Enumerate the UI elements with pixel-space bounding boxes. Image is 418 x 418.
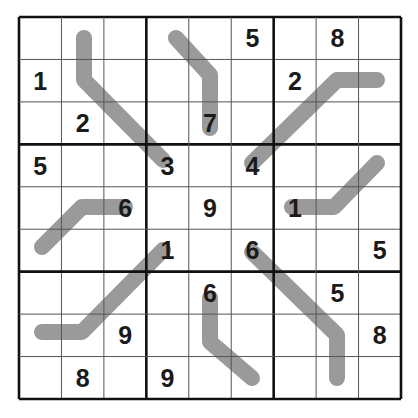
cell-r3c7[interactable] — [274, 102, 316, 144]
cell-r3c4[interactable] — [146, 102, 188, 144]
cell-r5c2[interactable] — [61, 187, 103, 229]
given-digit-r3c5: 7 — [203, 109, 217, 137]
given-digit-r6c9: 5 — [373, 236, 387, 264]
cell-r4c3[interactable] — [104, 144, 146, 186]
cell-r2c9[interactable] — [359, 59, 401, 101]
given-digit-r8c3: 9 — [118, 321, 132, 349]
cell-r2c3[interactable] — [104, 59, 146, 101]
cell-r5c1[interactable] — [19, 187, 61, 229]
cell-r4c8[interactable] — [316, 144, 358, 186]
cell-r8c6[interactable] — [231, 314, 273, 356]
cell-r6c5[interactable] — [189, 229, 231, 271]
given-digit-r1c6: 5 — [245, 24, 259, 52]
cell-r1c2[interactable] — [61, 17, 103, 59]
cell-r2c2[interactable] — [61, 59, 103, 101]
cell-r5c6[interactable] — [231, 187, 273, 229]
given-digit-r5c7: 1 — [288, 194, 302, 222]
given-digit-r7c8: 5 — [330, 279, 344, 307]
cell-r2c4[interactable] — [146, 59, 188, 101]
cell-r6c8[interactable] — [316, 229, 358, 271]
cell-r3c1[interactable] — [19, 102, 61, 144]
cell-r8c5[interactable] — [189, 314, 231, 356]
cell-r6c3[interactable] — [104, 229, 146, 271]
given-digit-r3c2: 2 — [76, 109, 90, 137]
cell-r5c8[interactable] — [316, 187, 358, 229]
cell-r3c8[interactable] — [316, 102, 358, 144]
cell-r4c2[interactable] — [61, 144, 103, 186]
cell-r9c7[interactable] — [274, 357, 316, 399]
cell-r7c3[interactable] — [104, 272, 146, 314]
cell-r1c3[interactable] — [104, 17, 146, 59]
cell-r2c8[interactable] — [316, 59, 358, 101]
cell-r5c4[interactable] — [146, 187, 188, 229]
cell-r7c4[interactable] — [146, 272, 188, 314]
cell-r8c8[interactable] — [316, 314, 358, 356]
given-digit-r7c5: 6 — [203, 279, 217, 307]
given-digit-r1c8: 8 — [330, 24, 344, 52]
cell-r2c5[interactable] — [189, 59, 231, 101]
sudoku-board: 581227534691165659889 — [0, 0, 418, 418]
cell-r9c9[interactable] — [359, 357, 401, 399]
cell-r7c2[interactable] — [61, 272, 103, 314]
cell-r7c6[interactable] — [231, 272, 273, 314]
given-digit-r2c7: 2 — [288, 67, 302, 95]
cell-r7c9[interactable] — [359, 272, 401, 314]
cell-r3c3[interactable] — [104, 102, 146, 144]
cell-r5c9[interactable] — [359, 187, 401, 229]
cell-r8c4[interactable] — [146, 314, 188, 356]
cell-r8c1[interactable] — [19, 314, 61, 356]
cell-r4c9[interactable] — [359, 144, 401, 186]
given-digit-r4c1: 5 — [33, 152, 47, 180]
cell-r3c9[interactable] — [359, 102, 401, 144]
given-digit-r5c5: 9 — [203, 194, 217, 222]
cell-r1c4[interactable] — [146, 17, 188, 59]
cell-r8c7[interactable] — [274, 314, 316, 356]
cell-r6c1[interactable] — [19, 229, 61, 271]
cell-r9c1[interactable] — [19, 357, 61, 399]
cell-r7c1[interactable] — [19, 272, 61, 314]
cell-r2c6[interactable] — [231, 59, 273, 101]
cell-r9c8[interactable] — [316, 357, 358, 399]
cell-r9c5[interactable] — [189, 357, 231, 399]
given-digit-r6c6: 6 — [245, 236, 259, 264]
given-digit-r9c4: 9 — [161, 364, 175, 392]
cell-r1c7[interactable] — [274, 17, 316, 59]
cell-r9c6[interactable] — [231, 357, 273, 399]
given-digit-r4c6: 4 — [245, 152, 259, 180]
given-digit-r9c2: 8 — [76, 364, 90, 392]
cell-r7c7[interactable] — [274, 272, 316, 314]
cell-r8c2[interactable] — [61, 314, 103, 356]
given-digit-r2c1: 1 — [33, 67, 47, 95]
cell-r6c7[interactable] — [274, 229, 316, 271]
cell-r6c2[interactable] — [61, 229, 103, 271]
given-digit-r6c4: 1 — [161, 236, 175, 264]
cell-r1c1[interactable] — [19, 17, 61, 59]
cell-r4c7[interactable] — [274, 144, 316, 186]
cell-r9c3[interactable] — [104, 357, 146, 399]
given-digit-r5c3: 6 — [118, 194, 132, 222]
given-digit-r4c4: 3 — [161, 152, 175, 180]
cell-r4c5[interactable] — [189, 144, 231, 186]
given-digit-r8c9: 8 — [373, 321, 387, 349]
cell-r3c6[interactable] — [231, 102, 273, 144]
cell-r1c5[interactable] — [189, 17, 231, 59]
cell-r1c9[interactable] — [359, 17, 401, 59]
